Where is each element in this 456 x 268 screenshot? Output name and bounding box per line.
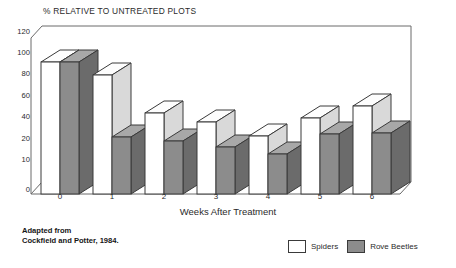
legend-label-rove-beetles: Rove Beetles bbox=[370, 242, 418, 251]
x-tick-5: 5 bbox=[307, 192, 333, 201]
x-axis-title: Weeks After Treatment bbox=[0, 206, 456, 217]
bar-beetles-week-5 bbox=[320, 122, 358, 194]
x-tick-3: 3 bbox=[203, 192, 229, 201]
chart-legend: Spiders Rove Beetles bbox=[288, 240, 418, 253]
x-tick-2: 2 bbox=[151, 192, 177, 201]
source-note-line-1: Adapted from bbox=[22, 226, 119, 236]
source-note-line-2: Cockfield and Potter, 1984. bbox=[22, 236, 119, 246]
legend-swatch-rove-beetles-icon bbox=[347, 240, 365, 253]
x-tick-4: 4 bbox=[255, 192, 281, 201]
bar-beetles-week-3 bbox=[216, 135, 254, 194]
x-tick-1: 1 bbox=[99, 192, 125, 201]
legend-swatch-spiders-icon bbox=[288, 240, 306, 253]
legend-item-spiders[interactable]: Spiders bbox=[288, 240, 338, 253]
bar-beetles-week-0 bbox=[60, 50, 98, 194]
legend-item-rove-beetles[interactable]: Rove Beetles bbox=[347, 240, 418, 253]
bar-beetles-week-1 bbox=[112, 125, 150, 194]
legend-label-spiders: Spiders bbox=[311, 242, 338, 251]
bar-beetles-week-2 bbox=[164, 129, 202, 194]
source-note: Adapted from Cockfield and Potter, 1984. bbox=[22, 226, 119, 246]
x-tick-0: 0 bbox=[47, 192, 73, 201]
bar-beetles-week-6 bbox=[372, 121, 410, 194]
x-tick-6: 6 bbox=[359, 192, 385, 201]
chart-root: % RELATIVE TO UNTREATED PLOTS 120 100 80… bbox=[0, 0, 456, 268]
